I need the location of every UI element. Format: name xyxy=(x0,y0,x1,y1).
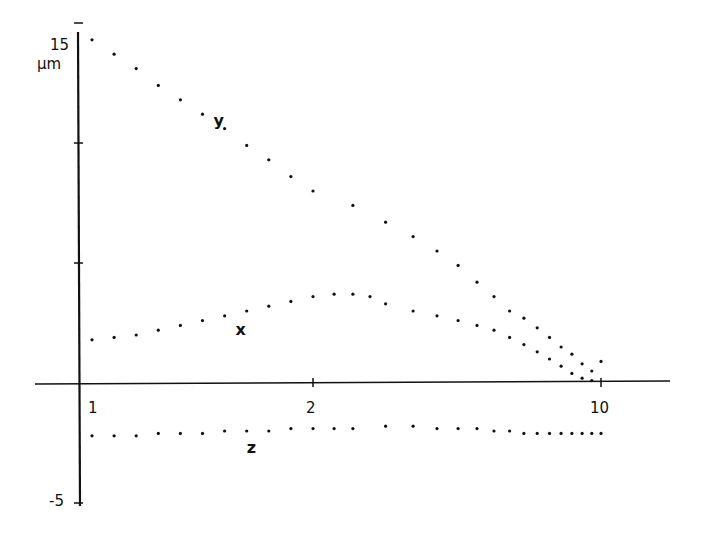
data-point xyxy=(570,432,573,435)
data-point xyxy=(599,360,602,363)
data-point xyxy=(435,249,438,252)
data-point xyxy=(560,432,563,435)
data-point xyxy=(492,295,495,298)
data-point xyxy=(548,432,551,435)
data-point xyxy=(90,338,93,341)
x-axis xyxy=(35,381,670,384)
data-point xyxy=(135,333,138,336)
data-point xyxy=(333,427,336,430)
data-point xyxy=(536,326,539,329)
data-point xyxy=(492,429,495,432)
series-y: y xyxy=(90,38,602,372)
data-point xyxy=(179,98,182,101)
data-point xyxy=(289,175,292,178)
y-bottom-label: -5 xyxy=(49,492,64,510)
data-point xyxy=(223,429,226,432)
data-point xyxy=(508,336,511,339)
data-point xyxy=(351,427,354,430)
data-point xyxy=(581,362,584,365)
data-point xyxy=(590,369,593,372)
data-point xyxy=(457,427,460,430)
data-point xyxy=(267,429,270,432)
data-point xyxy=(384,221,387,224)
data-point xyxy=(245,144,248,147)
data-point xyxy=(201,113,204,116)
data-point xyxy=(179,324,182,327)
data-point xyxy=(223,314,226,317)
data-point xyxy=(570,353,573,356)
y-axis xyxy=(78,32,80,506)
y-unit-label: µm xyxy=(37,55,61,73)
data-point xyxy=(548,357,551,360)
data-point xyxy=(351,293,354,296)
data-point xyxy=(435,314,438,317)
data-point xyxy=(536,432,539,435)
data-point xyxy=(475,281,478,284)
x-label-2: 2 xyxy=(306,399,316,417)
data-point xyxy=(289,300,292,303)
data-point xyxy=(368,295,371,298)
series-x: x xyxy=(90,293,593,383)
data-point xyxy=(581,377,584,380)
series-label-z: z xyxy=(247,438,256,457)
data-point xyxy=(311,189,314,192)
data-point xyxy=(157,329,160,332)
data-point xyxy=(508,309,511,312)
data-point xyxy=(548,336,551,339)
data-point xyxy=(157,84,160,87)
data-point xyxy=(581,432,584,435)
series-label-x: x xyxy=(236,320,247,339)
data-point xyxy=(90,434,93,437)
data-point xyxy=(135,434,138,437)
data-point xyxy=(384,302,387,305)
data-point xyxy=(475,427,478,430)
data-point xyxy=(522,317,525,320)
data-point xyxy=(475,324,478,327)
x-label-10: 10 xyxy=(590,399,609,417)
data-point xyxy=(412,309,415,312)
data-point xyxy=(113,434,116,437)
series-label-y: y xyxy=(214,111,225,130)
series-z: z xyxy=(90,425,602,457)
data-point xyxy=(267,158,270,161)
data-point xyxy=(201,432,204,435)
chart: 15 µm -5 1 2 10 yxz xyxy=(0,0,706,537)
data-point xyxy=(508,429,511,432)
data-point xyxy=(113,336,116,339)
data-point xyxy=(311,427,314,430)
data-point xyxy=(412,425,415,428)
data-point xyxy=(113,53,116,56)
data-point xyxy=(590,432,593,435)
data-point xyxy=(522,343,525,346)
data-point xyxy=(536,350,539,353)
axes xyxy=(35,23,670,506)
data-point xyxy=(201,319,204,322)
series-layer: yxz xyxy=(90,38,602,456)
data-point xyxy=(457,264,460,267)
data-point xyxy=(384,425,387,428)
data-point xyxy=(457,319,460,322)
data-point xyxy=(522,432,525,435)
data-point xyxy=(90,38,93,41)
data-point xyxy=(135,67,138,70)
data-point xyxy=(351,204,354,207)
data-point xyxy=(560,345,563,348)
data-point xyxy=(289,427,292,430)
data-point xyxy=(245,429,248,432)
data-point xyxy=(412,235,415,238)
data-point xyxy=(311,295,314,298)
x-label-1: 1 xyxy=(88,399,98,417)
data-point xyxy=(570,372,573,375)
data-point xyxy=(179,432,182,435)
y-top-label: 15 xyxy=(50,36,69,54)
data-point xyxy=(157,432,160,435)
data-point xyxy=(560,365,563,368)
data-point xyxy=(245,309,248,312)
data-point xyxy=(435,427,438,430)
data-point xyxy=(590,379,593,382)
data-point xyxy=(492,329,495,332)
data-point xyxy=(333,293,336,296)
data-point xyxy=(267,305,270,308)
data-point xyxy=(599,432,602,435)
